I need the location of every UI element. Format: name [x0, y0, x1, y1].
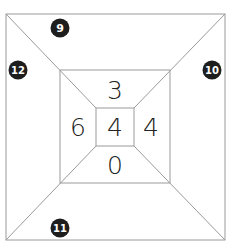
badge-top-label: 9: [56, 22, 64, 35]
nested-squares-diagram: 4 3 6 4 0 9 12 10 11: [0, 0, 233, 246]
badge-right-label: 10: [205, 65, 219, 76]
middle-left-number: 6: [70, 113, 86, 142]
badge-top: 9: [51, 19, 70, 38]
diagonal-bottom-right: [134, 146, 225, 240]
middle-right-number: 4: [143, 113, 159, 142]
middle-bottom-number: 0: [107, 151, 123, 180]
center-number: 4: [107, 113, 123, 142]
badge-left-label: 12: [11, 65, 25, 76]
badge-left: 12: [9, 61, 28, 80]
badge-right: 10: [203, 61, 222, 80]
middle-top-number: 3: [107, 76, 123, 105]
badge-bottom-label: 11: [53, 223, 67, 234]
badge-bottom: 11: [51, 219, 70, 238]
